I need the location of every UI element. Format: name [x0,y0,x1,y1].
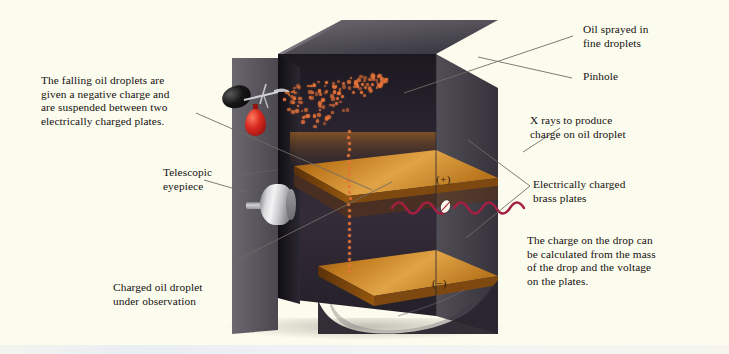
oil-droplet [348,130,351,133]
oil-droplet [348,246,351,249]
oil-droplet [348,142,351,145]
figure-canvas: (+) (−) [0,0,729,354]
oil-droplet [348,161,351,164]
oil-droplet [347,203,350,206]
x-ray-beam [392,194,512,224]
oil-flask [245,109,266,136]
note-charged-droplet: Charged oil droplet under observation [113,281,263,308]
note-oil-sprayed: Oil sprayed in fine droplets [583,23,723,50]
oil-droplet [347,179,350,182]
note-falling-droplets: The falling oil droplets are given a neg… [41,74,221,128]
note-brass-plates: Electrically charged brass plates [533,178,698,205]
oil-droplet [348,148,351,151]
note-telescopic-eyepiece: Telescopic eyepiece [163,166,273,193]
oil-droplet [348,252,351,255]
eyepiece-rear-rim [286,189,296,220]
oil-droplet [348,264,351,267]
note-pinhole: Pinhole [583,70,703,84]
bottom-scan-strip [0,345,729,354]
oil-droplet [347,154,350,157]
oil-droplet [347,136,350,139]
plate-negative-label: (−) [432,277,447,289]
oil-droplet [348,209,351,212]
note-xrays: X rays to produce charge on oil droplet [530,114,700,141]
oil-droplet [348,222,351,225]
oil-droplet [348,240,351,243]
oil-droplet [348,167,351,170]
oil-droplet [349,197,352,200]
oil-droplet [348,191,351,194]
note-charge-calculation: The charge on the drop can be calculated… [527,234,717,288]
oil-droplet [348,215,351,218]
plate-positive-label: (+) [436,173,451,185]
oil-droplet [348,185,351,188]
oil-droplet [348,228,351,231]
oil-droplet [348,234,351,237]
oil-droplet [348,258,351,261]
oil-droplet [348,270,351,273]
oil-droplet [348,173,351,176]
